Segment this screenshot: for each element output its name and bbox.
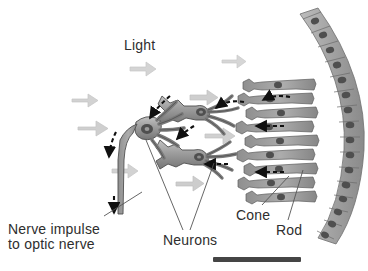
light-arrow [72, 94, 98, 107]
scale-bar [213, 257, 301, 262]
label-rod: Rod [276, 223, 302, 238]
retina-diagram-figure: Light Nerve impulse to optic nerve Neuro… [0, 0, 368, 271]
photoreceptor-cell [244, 163, 318, 176]
photoreceptor-cell [236, 121, 314, 134]
photoreceptor-cell [246, 107, 318, 120]
photoreceptor-cell [237, 149, 315, 162]
light-arrow [176, 176, 204, 191]
photoreceptor-cell [238, 93, 314, 106]
photoreceptor-cell [246, 191, 317, 204]
leader-line-neurons-bipolar [190, 163, 214, 230]
photoreceptor-cell [238, 177, 315, 190]
light-arrow [112, 164, 138, 178]
photoreceptor-cell [245, 135, 319, 148]
label-nerve-impulse: Nerve impulse to optic nerve [8, 222, 100, 252]
light-arrow [222, 55, 246, 68]
photoreceptor-layer [236, 79, 319, 204]
label-light: Light [124, 38, 155, 53]
photoreceptor-cell [243, 79, 316, 92]
label-cone: Cone [236, 208, 270, 223]
label-neurons: Neurons [163, 233, 217, 248]
light-arrow [78, 121, 108, 136]
light-arrow [130, 62, 156, 76]
signal-arrow [109, 132, 116, 157]
bipolar-neuron-lower [156, 140, 236, 178]
light-arrow [190, 90, 218, 105]
